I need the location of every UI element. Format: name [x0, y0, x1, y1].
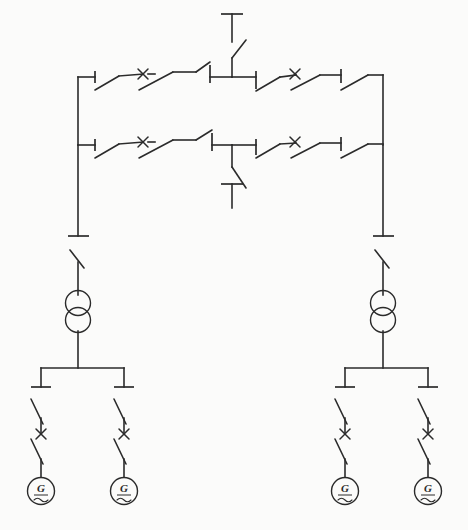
gen-bus-right [345, 368, 428, 387]
bay-lower-left[interactable] [78, 130, 232, 158]
generator-4[interactable]: G [415, 478, 442, 505]
single-line-diagram: G G [0, 0, 468, 530]
bus-seg-top-l2 [119, 74, 143, 76]
disconnect-low-l1-blade[interactable] [95, 144, 119, 158]
disconnect-top-l1-blade[interactable] [95, 76, 119, 90]
generator-1-label: G [37, 482, 45, 494]
disconnect-low-r2-blade[interactable] [291, 143, 320, 158]
generator-2-branch[interactable]: G [111, 387, 138, 505]
top-bus-row [78, 62, 383, 236]
generator-2-label: G [120, 482, 128, 494]
gen-bus-left [41, 368, 124, 387]
generator-3-branch[interactable]: G [332, 387, 359, 505]
generator-2[interactable]: G [111, 478, 138, 505]
bay-top-left[interactable] [78, 62, 232, 90]
disconnect-xfmr-right-blade[interactable] [375, 250, 389, 268]
feeder-bottom-disconnect-blade[interactable] [232, 167, 246, 188]
feeder-bottom[interactable] [221, 145, 246, 208]
bay-lower-right[interactable] [232, 137, 383, 158]
transformer-left-winding-lv [66, 308, 91, 333]
disconnect-low-r3-blade[interactable] [341, 144, 368, 158]
bus-seg-low-l2 [119, 142, 143, 144]
bay-top-right[interactable] [232, 69, 383, 91]
generator-4-branch[interactable]: G [415, 387, 442, 505]
generator-3[interactable]: G [332, 478, 359, 505]
disconnect-low-r1-blade[interactable] [256, 144, 280, 158]
feeder-top-disconnect-blade[interactable] [232, 40, 246, 58]
transformer-left-branch[interactable] [66, 236, 91, 368]
disconnect-low-l3-blade[interactable] [196, 130, 212, 140]
feeder-top[interactable] [221, 14, 246, 77]
transformer-right-winding-lv [371, 308, 396, 333]
transformer-right[interactable] [371, 291, 396, 333]
lower-bus-row [78, 130, 383, 158]
disconnect-top-r1-blade[interactable] [256, 77, 280, 91]
transformer-right-branch[interactable] [371, 236, 396, 368]
generator-4-label: G [424, 482, 432, 494]
generator-1[interactable]: G [28, 478, 55, 505]
disconnect-xfmr-left-blade[interactable] [70, 250, 84, 268]
single-line-diagram-canvas: G G [0, 0, 468, 530]
generator-3-label: G [341, 482, 349, 494]
disconnect-top-l3-blade[interactable] [196, 62, 210, 72]
generator-1-branch[interactable]: G [28, 387, 55, 505]
breaker-low-r-x[interactable] [290, 137, 300, 147]
breaker-top-r-x[interactable] [290, 69, 300, 79]
transformer-left[interactable] [66, 291, 91, 333]
disconnect-top-r2-blade[interactable] [291, 75, 320, 90]
disconnect-top-r3-blade[interactable] [341, 75, 368, 90]
